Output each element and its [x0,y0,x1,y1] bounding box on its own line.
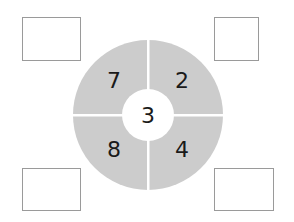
segment-number-bottom-left: 8 [107,137,121,162]
segment-number-bottom-right: 4 [175,137,189,162]
segment-number-top-left: 7 [107,68,121,93]
number-wheel: 3 7 2 8 4 [0,0,294,222]
segment-number-top-right: 2 [175,68,189,93]
center-number: 3 [141,103,155,128]
